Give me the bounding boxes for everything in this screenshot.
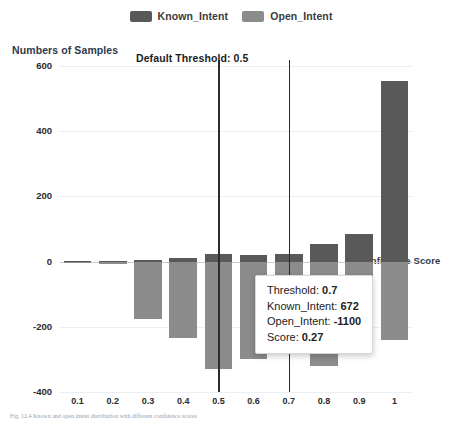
figure-caption: Fig. 12.4 Known and open intent distribu… <box>10 412 450 421</box>
gridline <box>60 131 412 132</box>
chart-tooltip: Threshold: 0.7 Known_Intent: 672 Open_In… <box>255 275 373 354</box>
tooltip-key: Open_Intent: <box>267 315 331 327</box>
tooltip-value: -1100 <box>334 315 362 327</box>
x-tick-label: 0.3 <box>142 396 155 406</box>
x-tick-label: 0.4 <box>177 396 190 406</box>
legend-item-known-intent[interactable]: Known_Intent <box>130 10 229 22</box>
gridline <box>60 66 412 67</box>
y-tick-label: 400 <box>12 125 52 136</box>
bar-open-intent[interactable] <box>169 262 196 339</box>
x-tick-label: 1 <box>392 396 397 406</box>
gridline <box>60 196 412 197</box>
tooltip-value: 672 <box>340 300 358 312</box>
chart-page: Known_Intent Open_Intent Numbers of Samp… <box>0 0 462 424</box>
tooltip-key: Score: <box>267 331 299 343</box>
y-tick-label: 600 <box>12 60 52 71</box>
x-tick-label: 0.6 <box>247 396 260 406</box>
legend-item-open-intent[interactable]: Open_Intent <box>242 10 332 22</box>
tooltip-row: Threshold: 0.7 <box>267 283 361 299</box>
tooltip-key: Known_Intent: <box>267 300 337 312</box>
tooltip-key: Threshold: <box>267 284 319 296</box>
chart-legend: Known_Intent Open_Intent <box>0 10 462 22</box>
bar-open-intent[interactable] <box>134 262 161 319</box>
legend-label-open-intent: Open_Intent <box>270 10 332 22</box>
y-tick-label: -400 <box>12 386 52 397</box>
tooltip-value: 0.27 <box>302 331 323 343</box>
legend-label-known-intent: Known_Intent <box>158 10 229 22</box>
x-tick-label: 0.9 <box>353 396 366 406</box>
gridline <box>60 392 412 393</box>
threshold-line-0.5[interactable] <box>218 60 220 392</box>
tooltip-row: Known_Intent: 672 <box>267 299 361 315</box>
tooltip-row: Score: 0.27 <box>267 330 361 346</box>
tooltip-row: Open_Intent: -1100 <box>267 314 361 330</box>
bar-open-intent[interactable] <box>64 262 91 263</box>
bar-known-intent[interactable] <box>310 244 337 262</box>
y-tick-label: 200 <box>12 190 52 201</box>
x-tick-label: 0.1 <box>71 396 84 406</box>
bar-open-intent[interactable] <box>99 262 126 265</box>
default-threshold-label: Default Threshold: 0.5 <box>136 52 248 64</box>
tooltip-value: 0.7 <box>322 284 337 296</box>
bar-open-intent[interactable] <box>381 262 408 340</box>
legend-swatch-known-intent <box>130 11 152 22</box>
legend-swatch-open-intent <box>242 11 264 22</box>
y-tick-label: -200 <box>12 321 52 332</box>
x-tick-label: 0.5 <box>212 396 225 406</box>
y-tick-label: 0 <box>12 256 52 267</box>
x-tick-label: 0.8 <box>318 396 331 406</box>
bar-known-intent[interactable] <box>381 81 408 262</box>
x-tick-label: 0.7 <box>283 396 296 406</box>
x-tick-label: 0.2 <box>107 396 120 406</box>
y-axis-title: Numbers of Samples <box>12 44 118 56</box>
bar-known-intent[interactable] <box>345 234 372 262</box>
